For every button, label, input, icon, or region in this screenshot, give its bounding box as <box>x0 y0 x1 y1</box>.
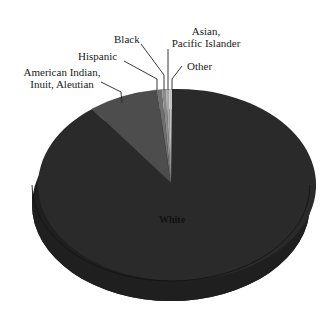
label-white: White <box>159 214 185 225</box>
leader-black <box>141 44 164 90</box>
slice-white <box>38 89 316 281</box>
label-hispanic: Hispanic <box>78 50 117 62</box>
label-american-indian: American Indian, Inuit, Aleutian <box>14 66 110 90</box>
pie-chart <box>0 0 328 319</box>
label-asian-line2: Pacific Islander <box>166 37 246 49</box>
label-black: Black <box>114 33 140 45</box>
label-american-indian-line1: American Indian, <box>14 66 110 78</box>
leader-hispanic <box>124 61 157 90</box>
label-asian-line1: Asian, <box>166 25 246 37</box>
label-other: Other <box>187 60 212 72</box>
label-asian: Asian, Pacific Islander <box>166 25 246 49</box>
label-american-indian-line2: Inuit, Aleutian <box>14 78 110 90</box>
leader-other <box>172 66 182 90</box>
